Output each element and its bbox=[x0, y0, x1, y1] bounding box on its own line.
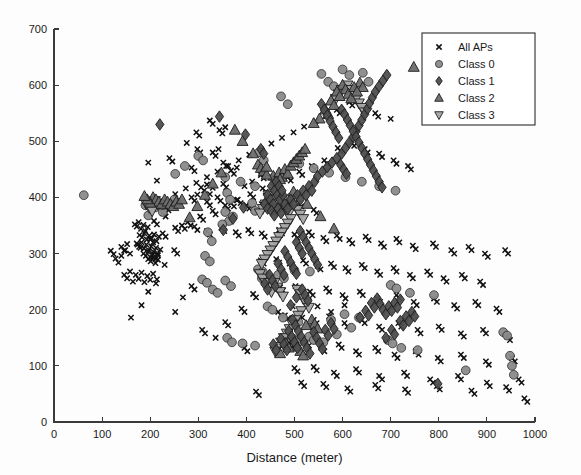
data-point bbox=[199, 156, 208, 165]
data-point bbox=[248, 199, 257, 208]
data-point bbox=[277, 92, 286, 101]
legend-label: Class 1 bbox=[458, 75, 495, 87]
data-point bbox=[357, 177, 366, 186]
data-point bbox=[358, 68, 367, 77]
data-point bbox=[364, 77, 373, 86]
data-point bbox=[509, 370, 518, 379]
data-point bbox=[430, 291, 439, 300]
data-point bbox=[506, 351, 515, 360]
data-point bbox=[461, 366, 470, 375]
data-point bbox=[503, 331, 512, 340]
data-point bbox=[204, 228, 213, 237]
y-tick-label: 600 bbox=[29, 79, 47, 91]
y-tick-label: 100 bbox=[29, 360, 47, 372]
data-point bbox=[340, 310, 349, 319]
y-tick-label: 0 bbox=[41, 416, 47, 428]
data-point bbox=[345, 71, 354, 80]
x-tick-label: 100 bbox=[93, 428, 111, 440]
legend-label: Class 2 bbox=[458, 92, 495, 104]
data-point bbox=[227, 282, 236, 291]
data-point bbox=[305, 267, 314, 276]
data-point bbox=[268, 305, 277, 314]
x-tick-label: 0 bbox=[51, 428, 57, 440]
x-tick-label: 500 bbox=[285, 428, 303, 440]
scatter-plot: All APsClass 0Class 1Class 2Class 3 0100… bbox=[0, 0, 581, 475]
data-point bbox=[251, 182, 260, 191]
x-tick-label: 800 bbox=[430, 428, 448, 440]
data-point bbox=[213, 288, 222, 297]
data-point bbox=[205, 257, 214, 266]
legend-label: Class 3 bbox=[458, 109, 495, 121]
x-tick-label: 700 bbox=[382, 428, 400, 440]
legend[interactable]: All APsClass 0Class 1Class 2Class 3 bbox=[422, 33, 535, 125]
data-point bbox=[221, 208, 230, 217]
x-tick-label: 900 bbox=[478, 428, 496, 440]
x-axis-title: Distance (meter) bbox=[246, 450, 342, 465]
data-point bbox=[317, 70, 326, 79]
y-tick-label: 700 bbox=[29, 23, 47, 35]
data-point bbox=[203, 278, 212, 287]
data-point bbox=[171, 169, 180, 178]
data-point bbox=[508, 361, 517, 370]
data-point bbox=[228, 338, 237, 347]
x-tick-label: 1000 bbox=[523, 428, 547, 440]
data-point bbox=[207, 237, 216, 246]
y-tick-label: 400 bbox=[29, 191, 47, 203]
data-point bbox=[406, 288, 415, 297]
y-tick-label: 500 bbox=[29, 135, 47, 147]
data-point bbox=[226, 195, 235, 204]
data-point bbox=[180, 162, 189, 171]
y-tick-label: 200 bbox=[29, 304, 47, 316]
data-point bbox=[279, 313, 288, 322]
data-point bbox=[397, 343, 406, 352]
data-point bbox=[236, 177, 245, 186]
legend-label: All APs bbox=[458, 41, 493, 53]
data-point bbox=[79, 191, 88, 200]
legend-marker-o bbox=[435, 60, 442, 67]
data-point bbox=[413, 346, 422, 355]
x-tick-label: 400 bbox=[237, 428, 255, 440]
data-point bbox=[251, 341, 260, 350]
data-point bbox=[391, 186, 400, 195]
data-point bbox=[347, 323, 356, 332]
x-tick-label: 300 bbox=[189, 428, 207, 440]
chart-page: All APsClass 0Class 1Class 2Class 3 0100… bbox=[0, 0, 581, 475]
data-point bbox=[238, 339, 247, 348]
data-point bbox=[283, 100, 292, 109]
data-point bbox=[392, 284, 401, 293]
y-tick-label: 300 bbox=[29, 248, 47, 260]
x-tick-label: 200 bbox=[141, 428, 159, 440]
legend-label: Class 0 bbox=[458, 58, 495, 70]
x-tick-label: 600 bbox=[333, 428, 351, 440]
data-point bbox=[388, 339, 397, 348]
